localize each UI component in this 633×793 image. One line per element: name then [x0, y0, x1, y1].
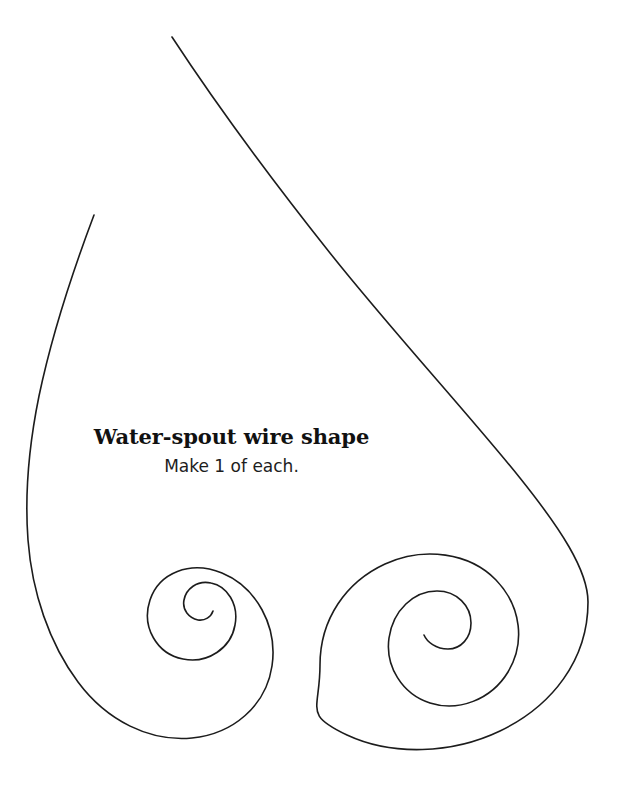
label-block: Water-spout wire shape Make 1 of each.	[0, 424, 463, 478]
pattern-sheet: Water-spout wire shape Make 1 of each.	[0, 0, 633, 793]
long-sweep-curve	[172, 37, 588, 750]
page-title: Water-spout wire shape	[0, 424, 463, 450]
pattern-instruction: Make 1 of each.	[0, 454, 463, 478]
water-spout-wire-shape-drawing	[0, 0, 633, 793]
